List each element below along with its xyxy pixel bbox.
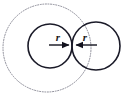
left-radius-label: r	[56, 31, 61, 43]
figure-canvas: r r	[0, 0, 132, 105]
figure-background	[0, 0, 132, 105]
geometry-figure: r r	[0, 0, 132, 105]
right-radius-label: r	[83, 31, 88, 43]
